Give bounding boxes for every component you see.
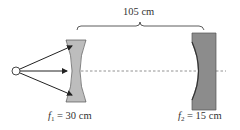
point-source	[12, 67, 20, 75]
equals-sign: =	[184, 110, 195, 121]
distance-label: 105 cm	[123, 6, 154, 17]
concave-mirror	[192, 33, 216, 110]
ray-upper	[20, 46, 72, 69]
distance-value: 105 cm	[123, 6, 154, 17]
ray-lower	[20, 73, 72, 95]
mirror-focal-length-label: f2 = 15 cm	[178, 110, 222, 123]
focal-value: 30 cm	[66, 110, 92, 121]
equals-sign: =	[54, 110, 65, 121]
lens-focal-length-label: f1 = 30 cm	[48, 110, 92, 123]
focal-value: 15 cm	[196, 110, 222, 121]
distance-brace	[77, 22, 204, 30]
